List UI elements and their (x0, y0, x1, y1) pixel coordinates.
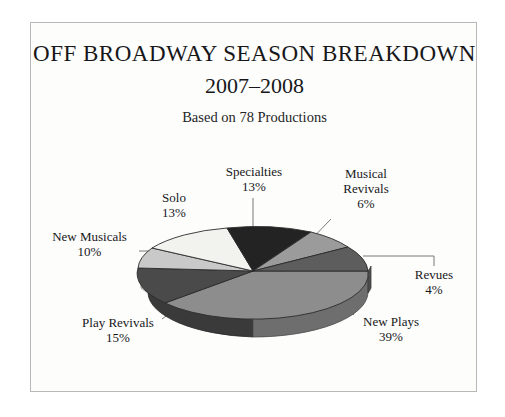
label-musical-revivals-pct: 6% (329, 196, 403, 211)
label-musical-revivals-name2: Revivals (329, 181, 403, 196)
label-play-revivals-name: Play Revivals (82, 315, 154, 330)
label-new-musicals: New Musicals 10% (39, 229, 140, 259)
pie-wall-revues (368, 266, 371, 293)
label-solo: Solo 13% (147, 190, 201, 220)
label-new-musicals-name: New Musicals (52, 229, 127, 244)
label-new-musicals-pct: 10% (39, 244, 140, 259)
chart-frame: OFF BROADWAY SEASON BREAKDOWN 2007–2008 … (30, 22, 477, 392)
label-play-revivals: Play Revivals 15% (66, 315, 170, 345)
label-specialties-name: Specialties (226, 164, 282, 179)
label-revues: Revues 4% (399, 267, 469, 297)
label-revues-pct: 4% (399, 282, 469, 297)
label-new-plays-name: New Plays (363, 314, 419, 329)
label-play-revivals-pct: 15% (66, 330, 170, 345)
pie-chart: Specialties 13% Musical Revivals 6% Revu… (31, 23, 478, 393)
label-specialties-pct: 13% (213, 179, 295, 194)
label-solo-name: Solo (162, 190, 186, 205)
pie-top-face (137, 227, 368, 320)
label-musical-revivals: Musical Revivals 6% (329, 166, 403, 211)
label-solo-pct: 13% (147, 205, 201, 220)
label-new-plays: New Plays 39% (349, 314, 433, 344)
label-specialties: Specialties 13% (213, 164, 295, 194)
leader-revues (363, 256, 434, 266)
label-musical-revivals-name: Musical (345, 166, 387, 181)
label-revues-name: Revues (415, 267, 453, 282)
label-new-plays-pct: 39% (349, 329, 433, 344)
